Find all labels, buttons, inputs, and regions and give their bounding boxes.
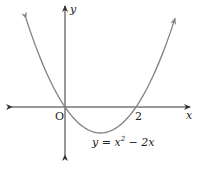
origin-label: O: [55, 111, 64, 122]
x-axis-label: x: [186, 110, 192, 121]
x-tick-2-label: 2: [135, 111, 142, 122]
y-axis-label: y: [70, 4, 76, 15]
equation-label: y = x2 − 2x: [92, 136, 155, 148]
equation-suffix: − 2x: [125, 136, 154, 149]
equation-prefix: y = x: [92, 136, 121, 149]
parabola-curve: [26, 18, 175, 133]
